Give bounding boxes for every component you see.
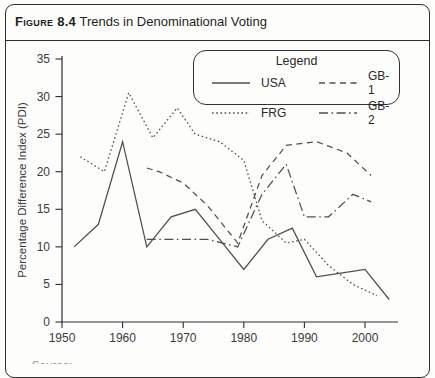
y-tick-label: 20 <box>37 165 51 179</box>
y-tick-label: 5 <box>43 277 50 291</box>
x-tick-label: 1950 <box>49 331 76 345</box>
legend-title: Legend <box>194 54 399 69</box>
y-tick-label: 15 <box>37 202 51 216</box>
series-line-usa <box>74 142 389 300</box>
x-tick-label: 1990 <box>291 331 318 345</box>
y-tick-label: 10 <box>37 240 51 254</box>
y-axis-title: Percentage Difference Index (PDI) <box>16 60 32 320</box>
legend-line-usa <box>212 77 250 89</box>
y-tick-label: 25 <box>37 127 51 141</box>
y-tick-label: 0 <box>43 315 50 329</box>
source-caption-clipped: Source: <box>32 359 292 364</box>
legend-label-frg: FRG <box>261 106 308 120</box>
legend-line-frg <box>212 107 250 119</box>
legend-label-usa: USA <box>261 76 308 90</box>
legend-label-gb1: GB-1 <box>368 69 391 97</box>
series-line-gb-1 <box>147 142 371 243</box>
x-tick-label: 1960 <box>109 331 136 345</box>
x-tick-label: 1970 <box>170 331 197 345</box>
legend-line-gb1 <box>319 77 357 89</box>
legend-box: Legend USA GB-1 FRG GB-2 <box>193 50 400 105</box>
legend-line-gb2 <box>319 107 357 119</box>
series-line-gb-2 <box>147 164 371 247</box>
y-tick-label: 30 <box>37 90 51 104</box>
x-tick-label: 2000 <box>352 331 379 345</box>
x-tick-label: 1980 <box>230 331 257 345</box>
y-tick-label: 35 <box>37 52 51 66</box>
legend-label-gb2: GB-2 <box>368 99 391 127</box>
legend-grid: USA GB-1 FRG GB-2 <box>194 69 399 127</box>
